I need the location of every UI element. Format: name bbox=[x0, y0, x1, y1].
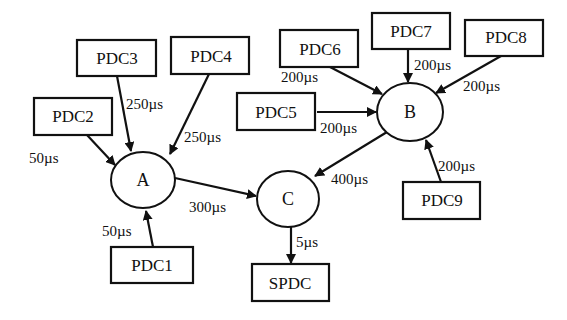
weight-pdc3-a: 250µs bbox=[126, 96, 163, 112]
box-pdc7: PDC7 bbox=[372, 13, 450, 49]
weight-pdc2-a: 50µs bbox=[29, 150, 59, 166]
box-pdc2-label: PDC2 bbox=[52, 107, 94, 126]
edge-pdc2-a bbox=[87, 135, 115, 165]
edge-a-c bbox=[175, 178, 256, 196]
edge-pdc3-a bbox=[117, 76, 131, 151]
network-diagram: PDC3 PDC4 PDC2 PDC1 SPDC PDC6 PDC7 PDC8 … bbox=[0, 0, 567, 320]
weight-c-spdc: 5µs bbox=[296, 234, 318, 250]
weight-pdc1-a: 50µs bbox=[102, 223, 132, 239]
box-pdc9-label: PDC9 bbox=[421, 191, 463, 210]
box-pdc6-label: PDC6 bbox=[299, 40, 341, 59]
node-b-label: B bbox=[404, 102, 416, 122]
node-c: C bbox=[257, 171, 319, 227]
box-pdc5-label: PDC5 bbox=[255, 103, 297, 122]
weight-pdc4-a: 250µs bbox=[184, 129, 221, 145]
box-pdc3: PDC3 bbox=[77, 40, 156, 76]
box-spdc-label: SPDC bbox=[269, 274, 312, 293]
box-pdc5: PDC5 bbox=[237, 93, 315, 130]
box-pdc8: PDC8 bbox=[465, 20, 543, 56]
box-pdc7-label: PDC7 bbox=[390, 22, 432, 41]
node-b: B bbox=[377, 83, 443, 141]
weight-pdc6-b: 200µs bbox=[281, 69, 318, 85]
box-pdc4-label: PDC4 bbox=[190, 47, 232, 66]
box-pdc3-label: PDC3 bbox=[96, 49, 138, 68]
node-a: A bbox=[111, 152, 175, 208]
box-pdc2: PDC2 bbox=[34, 98, 112, 135]
box-pdc9: PDC9 bbox=[403, 182, 480, 219]
weight-a-c: 300µs bbox=[189, 199, 226, 215]
edge-pdc6-b bbox=[330, 67, 382, 94]
box-spdc: SPDC bbox=[252, 264, 329, 301]
box-pdc4: PDC4 bbox=[171, 37, 249, 74]
box-pdc8-label: PDC8 bbox=[485, 28, 527, 47]
weight-pdc7-b: 200µs bbox=[414, 57, 451, 73]
edge-b-c bbox=[315, 132, 387, 176]
node-c-label: C bbox=[282, 189, 294, 209]
edge-pdc1-a bbox=[146, 211, 153, 247]
weight-pdc9-b: 200µs bbox=[438, 158, 475, 174]
box-pdc1: PDC1 bbox=[111, 247, 193, 283]
box-pdc6: PDC6 bbox=[280, 30, 358, 67]
weight-pdc8-b: 200µs bbox=[463, 78, 500, 94]
box-pdc1-label: PDC1 bbox=[131, 256, 173, 275]
weight-pdc5-b: 200µs bbox=[320, 120, 357, 136]
node-a-label: A bbox=[137, 170, 150, 190]
weight-b-c: 400µs bbox=[331, 171, 368, 187]
